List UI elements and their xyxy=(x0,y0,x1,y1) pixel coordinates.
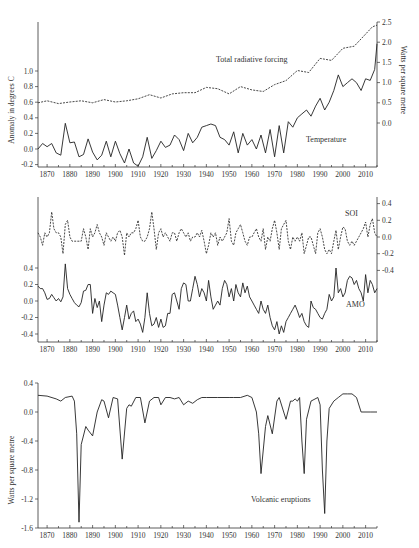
y-tick-label: -0.4 xyxy=(21,437,33,446)
bottom-x-ticks: 1870188018901900191019201930194019501960… xyxy=(40,525,377,540)
x-tick-label: 1980 xyxy=(290,170,305,179)
annotation-volcanic-eruptions: Volcanic eruptions xyxy=(251,495,311,504)
x-tick-label: 1930 xyxy=(176,170,191,179)
x-tick-label: 2010 xyxy=(358,170,373,179)
x-tick-label: 1870 xyxy=(40,170,55,179)
temperature-line xyxy=(38,44,377,167)
y-tick-label: 0.6 xyxy=(24,98,34,107)
x-tick-label: 2000 xyxy=(335,170,350,179)
x-tick-label: 1970 xyxy=(267,531,282,540)
y-tick-label: 0.4 xyxy=(382,199,392,208)
x-tick-label: 1910 xyxy=(131,345,146,354)
y-tick-label: 0.2 xyxy=(382,216,392,225)
x-tick-label: 1990 xyxy=(313,345,328,354)
bottom-left-ticks: -1.6-1.2-0.8-0.40.00.4 xyxy=(21,379,38,533)
y-tick-label: 0.0 xyxy=(382,233,392,242)
x-tick-label: 1910 xyxy=(131,170,146,179)
x-tick-label: 1960 xyxy=(244,531,259,540)
y-tick-label: 0.0 xyxy=(24,297,34,306)
x-tick-label: 1910 xyxy=(131,531,146,540)
x-tick-label: 1900 xyxy=(108,170,123,179)
y-tick-label: -0.2 xyxy=(21,160,33,169)
x-tick-label: 1890 xyxy=(85,170,100,179)
middle-left-ticks: -0.4-0.20.00.20.4 xyxy=(21,264,38,339)
panel-middle: -0.4-0.20.00.20.4 -0.4-0.20.00.20.4 1870… xyxy=(21,197,394,354)
y-tick-label: -0.2 xyxy=(21,313,33,322)
top-x-ticks: 1870188018901900191019201930194019501960… xyxy=(40,164,377,179)
annotation-amo: AMO xyxy=(346,300,365,309)
middle-x-ticks: 1870188018901900191019201930194019501960… xyxy=(40,339,377,354)
y-tick-label: 0.2 xyxy=(24,129,34,138)
bottom-ylabel-left: Watts per square metre xyxy=(7,435,16,504)
top-right-ticks: 0.00.51.01.52.02.5 xyxy=(377,18,392,128)
x-tick-label: 1890 xyxy=(85,345,100,354)
x-tick-label: 2010 xyxy=(358,345,373,354)
y-tick-label: 0.0 xyxy=(24,145,34,154)
x-tick-label: 1920 xyxy=(153,170,168,179)
y-tick-label: 1.5 xyxy=(382,58,392,67)
y-tick-label: 0.4 xyxy=(24,264,34,273)
x-tick-label: 1920 xyxy=(153,345,168,354)
y-tick-label: -1.2 xyxy=(21,495,33,504)
y-tick-label: 0.4 xyxy=(24,379,34,388)
y-tick-label: 2.0 xyxy=(382,38,392,47)
x-tick-label: 1980 xyxy=(290,531,305,540)
x-tick-label: 1940 xyxy=(199,345,214,354)
x-tick-label: 1930 xyxy=(176,345,191,354)
x-tick-label: 2000 xyxy=(335,345,350,354)
y-tick-label: -1.6 xyxy=(21,524,33,533)
x-tick-label: 1900 xyxy=(108,345,123,354)
x-tick-label: 1950 xyxy=(222,345,237,354)
x-tick-label: 1900 xyxy=(108,531,123,540)
annotation-total-radiative-forcing: Total radiative forcing xyxy=(216,55,287,64)
y-tick-label: 0.5 xyxy=(382,98,392,107)
annotation-soi: SOI xyxy=(345,209,358,218)
y-tick-label: 0.4 xyxy=(24,113,34,122)
middle-right-ticks: -0.4-0.20.00.20.4 xyxy=(377,199,394,275)
amo-line xyxy=(38,264,377,334)
x-tick-label: 1880 xyxy=(62,345,77,354)
x-tick-label: 1930 xyxy=(176,531,191,540)
x-tick-label: 1920 xyxy=(153,531,168,540)
x-tick-label: 1870 xyxy=(40,345,55,354)
climate-chart: -0.20.00.20.40.60.81.0 0.00.51.01.52.02.… xyxy=(0,0,419,548)
y-tick-label: 2.5 xyxy=(382,18,392,27)
x-tick-label: 1940 xyxy=(199,531,214,540)
x-tick-label: 1970 xyxy=(267,345,282,354)
panel-bottom: -1.6-1.2-0.8-0.40.00.4 18701880189019001… xyxy=(7,379,377,541)
y-tick-label: -0.4 xyxy=(382,266,394,275)
y-tick-label: 1.0 xyxy=(24,67,34,76)
x-tick-label: 1970 xyxy=(267,170,282,179)
x-tick-label: 1990 xyxy=(313,170,328,179)
forcing-line xyxy=(38,25,377,103)
y-tick-label: 1.0 xyxy=(382,78,392,87)
panel-top: -0.20.00.20.40.60.81.0 0.00.51.01.52.02.… xyxy=(7,18,408,180)
x-tick-label: 2000 xyxy=(335,531,350,540)
y-tick-label: -0.4 xyxy=(21,330,33,339)
top-ylabel-right: Watts per square metre xyxy=(399,46,408,115)
top-ylabel-left: Anomaly in degrees C xyxy=(7,76,16,143)
y-tick-label: 0.0 xyxy=(24,408,34,417)
y-tick-label: 0.2 xyxy=(24,280,34,289)
volcanic-line xyxy=(38,394,377,522)
annotation-temperature: Temperature xyxy=(306,135,347,144)
x-tick-label: 1880 xyxy=(62,170,77,179)
y-tick-label: 0.0 xyxy=(382,119,392,128)
top-left-ticks: -0.20.00.20.40.60.81.0 xyxy=(21,67,38,170)
soi-line xyxy=(38,212,377,256)
x-tick-label: 1870 xyxy=(40,531,55,540)
x-tick-label: 1940 xyxy=(199,170,214,179)
x-tick-label: 1990 xyxy=(313,531,328,540)
x-tick-label: 1950 xyxy=(222,170,237,179)
x-tick-label: 1890 xyxy=(85,531,100,540)
x-tick-label: 1980 xyxy=(290,345,305,354)
y-tick-label: -0.2 xyxy=(382,249,394,258)
x-tick-label: 1950 xyxy=(222,531,237,540)
x-tick-label: 1960 xyxy=(244,345,259,354)
y-tick-label: 0.8 xyxy=(24,82,34,91)
x-tick-label: 1880 xyxy=(62,531,77,540)
x-tick-label: 2010 xyxy=(358,531,373,540)
x-tick-label: 1960 xyxy=(244,170,259,179)
y-tick-label: -0.8 xyxy=(21,466,33,475)
